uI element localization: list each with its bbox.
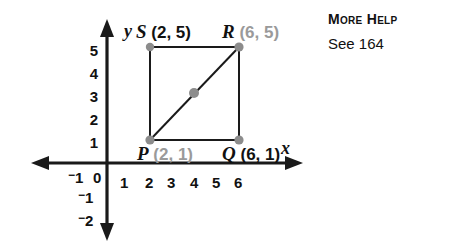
- minus-sign-x1: −: [68, 169, 75, 181]
- x-tick-3: 3: [167, 175, 175, 190]
- more-help-reference: See 164: [328, 36, 468, 53]
- point-label-p: P (2, 1): [137, 144, 193, 163]
- point-coords-s: (2, 5): [151, 23, 191, 42]
- y-tick-5: 5: [84, 43, 98, 58]
- point-label-r: R (6, 5): [222, 22, 279, 41]
- x-tick-1: 1: [120, 175, 128, 190]
- more-help-title: More Help: [328, 12, 468, 27]
- x-axis-right-arrowhead: [285, 156, 303, 170]
- y-tick-4: 4: [84, 66, 98, 81]
- x-axis-left-arrowhead: [31, 156, 49, 170]
- y-axis-bottom-arrowhead: [100, 223, 114, 241]
- y-tick-negative-2: −2: [78, 213, 93, 228]
- y-tick-negative-2-value: 2: [85, 212, 93, 229]
- y-axis-top-arrowhead: [100, 19, 114, 37]
- y-tick-2: 2: [84, 112, 98, 127]
- x-tick-negative-1-value: 1: [75, 169, 83, 186]
- point-coords-p: (2, 1): [153, 145, 193, 164]
- coordinate-plane-figure: y x 5 4 3 2 1 −1 0 1 2 3 4 5 6 −1 −2 S (…: [0, 0, 320, 249]
- x-tick-5: 5: [212, 175, 220, 190]
- point-coords-r: (6, 5): [239, 23, 279, 42]
- x-tick-negative-1: −1: [68, 170, 83, 185]
- x-tick-4: 4: [190, 175, 198, 190]
- point-coords-q: (6, 1): [240, 145, 280, 164]
- point-label-s: S (2, 5): [136, 22, 191, 41]
- midpoint-dot: [189, 88, 199, 98]
- vertex-dot-s: [146, 43, 154, 51]
- minus-sign-y1: −: [78, 189, 85, 201]
- y-tick-3: 3: [84, 89, 98, 104]
- y-tick-negative-1: −1: [78, 190, 93, 205]
- y-tick-negative-1-value: 1: [85, 189, 93, 206]
- point-name-s: S: [136, 21, 147, 42]
- y-tick-1: 1: [84, 135, 98, 150]
- x-tick-6: 6: [234, 175, 242, 190]
- x-axis-label: x: [281, 139, 290, 157]
- y-axis-label: y: [124, 22, 132, 40]
- origin-label: 0: [93, 170, 101, 185]
- point-name-q: Q: [222, 143, 236, 164]
- point-name-p: P: [137, 143, 149, 164]
- point-name-r: R: [222, 21, 235, 42]
- minus-sign-y2: −: [78, 212, 85, 224]
- x-tick-2: 2: [145, 175, 153, 190]
- point-label-q: Q (6, 1): [222, 144, 280, 163]
- vertex-dot-r: [234, 42, 243, 51]
- more-help-callout: More Help See 164: [328, 12, 468, 53]
